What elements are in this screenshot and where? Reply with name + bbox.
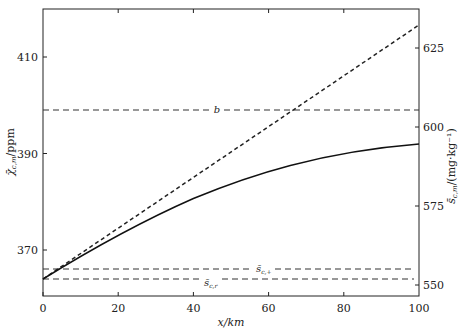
series-linear-dotted: [43, 25, 419, 279]
right-tick-label: 550: [423, 279, 444, 292]
x-tick-label: 40: [186, 302, 200, 315]
left-axis-label: χ̄c,m/ppm: [4, 128, 18, 177]
right-tick-label: 625: [423, 42, 444, 55]
x-tick-label: 100: [409, 302, 430, 315]
series-solid-curve: [43, 144, 419, 279]
right-axis-ticks: [415, 48, 419, 285]
right-tick-label: 575: [423, 200, 444, 213]
x-axis-tick-labels: 0 20 40 60 80 100: [40, 302, 430, 315]
label-s-c-plus: s̄c,+: [256, 263, 271, 275]
left-axis-ticks: [43, 57, 47, 250]
right-axis-label: s̄c,m/(mg·kg⁻¹): [445, 128, 459, 204]
chart: 0 20 40 60 80 100 x/km 370 390 410 χ̄c,m…: [0, 0, 464, 329]
left-tick-label: 390: [17, 148, 38, 161]
right-tick-label: 600: [423, 121, 444, 134]
x-tick-label: 60: [262, 302, 276, 315]
left-tick-label: 410: [17, 51, 38, 64]
x-tick-label: 80: [337, 302, 351, 315]
x-tick-label: 0: [40, 302, 47, 315]
left-tick-label: 370: [17, 244, 38, 257]
x-tick-label: 20: [111, 302, 125, 315]
label-s-c-r: s̄c,r: [204, 277, 218, 289]
label-b: b: [214, 104, 220, 115]
x-axis-label: x/km: [217, 316, 244, 329]
